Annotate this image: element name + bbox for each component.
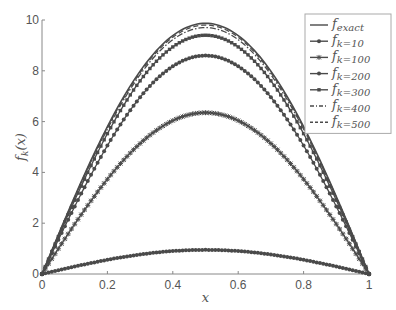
series-f-k-10 xyxy=(40,248,371,276)
y-tick-label: 4 xyxy=(32,165,39,179)
y-tick-label: 0 xyxy=(32,267,39,281)
y-tick-label: 10 xyxy=(26,13,40,27)
chart: 00.20.40.60.810246810xfk(x)fexactfk=10fk… xyxy=(0,0,396,310)
x-tick-label: 1 xyxy=(366,278,373,292)
x-tick-label: 0 xyxy=(39,278,46,292)
x-axis-label: x xyxy=(202,290,210,305)
y-tick-label: 6 xyxy=(32,115,39,129)
x-tick-label: 0.6 xyxy=(230,278,247,292)
y-axis-label: fk(x) xyxy=(13,133,30,162)
x-tick-label: 0.4 xyxy=(164,278,181,292)
y-tick-label: 2 xyxy=(32,216,39,230)
legend: fexactfk=10fk=100fk=200fk=300fk=400fk=50… xyxy=(305,14,391,133)
y-tick-label: 8 xyxy=(32,64,39,78)
x-tick-label: 0.2 xyxy=(99,278,116,292)
plot-area: 00.20.40.60.810246810xfk(x)fexactfk=10fk… xyxy=(0,0,396,310)
x-tick-label: 0.8 xyxy=(295,278,312,292)
